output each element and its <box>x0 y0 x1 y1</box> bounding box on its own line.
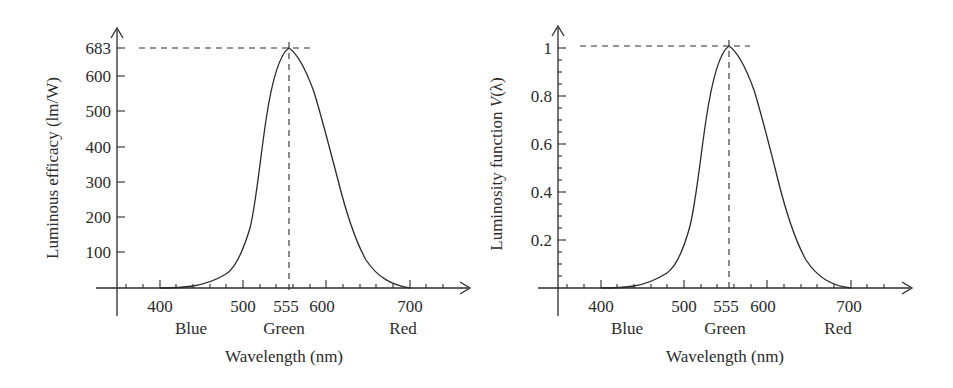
right-ytick-0.6: 0.6 <box>531 135 552 154</box>
left-ytick-200: 200 <box>86 208 112 227</box>
left-ytick-300: 300 <box>86 173 112 192</box>
left-x-tick-labels: 400 500 555 600 700 <box>147 297 423 316</box>
right-x-axis-title: Wavelength (nm) <box>666 347 784 366</box>
right-xtick-400: 400 <box>588 297 614 316</box>
left-xtick-555: 555 <box>273 297 299 316</box>
left-label-red: Red <box>389 319 417 338</box>
right-x-ticks <box>567 280 884 288</box>
left-ytick-683: 683 <box>86 39 112 58</box>
right-label-red: Red <box>824 319 852 338</box>
left-label-green: Green <box>263 319 305 338</box>
right-xtick-555: 555 <box>713 297 739 316</box>
left-y-tick-labels: 100 200 300 400 500 600 683 <box>86 39 112 262</box>
left-x-axis-title: Wavelength (nm) <box>225 347 343 366</box>
left-xtick-500: 500 <box>230 297 256 316</box>
left-ytick-400: 400 <box>86 138 112 157</box>
right-x-tick-labels: 400 500 555 600 700 <box>588 297 862 316</box>
right-luminosity-curve <box>601 46 851 288</box>
left-ytick-500: 500 <box>86 102 112 121</box>
right-label-green: Green <box>704 319 746 338</box>
left-color-labels: Blue Green Red <box>175 319 417 338</box>
right-xtick-600: 600 <box>750 297 776 316</box>
right-y-ticks <box>558 48 566 276</box>
right-color-labels: Blue Green Red <box>611 319 852 338</box>
right-y-tick-labels: 0.2 0.4 0.6 0.8 1 <box>531 39 553 250</box>
left-efficacy-curve <box>160 48 410 288</box>
left-y-ticks <box>117 48 125 252</box>
right-ytick-1: 1 <box>544 39 553 58</box>
figure: 100 200 300 400 500 600 683 <box>0 0 953 388</box>
right-xtick-700: 700 <box>836 297 862 316</box>
right-y-axis-title: Luminosity function V(λ) <box>487 77 506 251</box>
right-xtick-500: 500 <box>671 297 697 316</box>
left-xtick-600: 600 <box>309 297 335 316</box>
right-ytick-0.8: 0.8 <box>531 87 552 106</box>
left-chart: 100 200 300 400 500 600 683 <box>43 28 470 366</box>
left-xtick-400: 400 <box>147 297 173 316</box>
right-chart: 0.2 0.4 0.6 0.8 1 <box>487 26 912 366</box>
left-ytick-100: 100 <box>86 243 112 262</box>
right-ytick-0.4: 0.4 <box>531 183 553 202</box>
right-label-blue: Blue <box>611 319 643 338</box>
left-xtick-700: 700 <box>397 297 423 316</box>
right-ytick-0.2: 0.2 <box>531 231 552 250</box>
left-label-blue: Blue <box>175 319 207 338</box>
left-ytick-600: 600 <box>86 67 112 86</box>
left-y-axis-title: Luminous efficacy (lm/W) <box>43 77 62 259</box>
